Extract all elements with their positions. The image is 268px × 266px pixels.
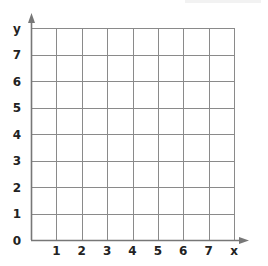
axes [28,13,249,244]
coordinate-grid: 1234567y01234567x [0,0,268,266]
x-tick-label: 7 [204,244,212,258]
x-tick-label: 3 [103,244,111,258]
x-tick-label: 1 [52,244,60,258]
x-tick-label: 4 [128,244,136,258]
y-axis-arrow-icon [28,13,35,23]
y-tick-label: 1 [13,207,21,221]
y-tick-label: 6 [13,75,21,89]
y-tick-label: 7 [13,48,21,62]
x-axis-label: x [230,244,238,258]
y-axis-label: y [13,22,21,36]
axis-labels: 1234567y01234567x [13,22,238,259]
y-tick-label: 2 [13,181,21,195]
x-tick-label: 2 [78,244,86,258]
grid-lines [31,28,235,240]
y-tick-label: 5 [13,101,21,115]
y-tick-label: 3 [13,154,21,168]
x-tick-label: 6 [179,244,187,258]
x-axis-arrow-icon [239,237,249,244]
origin-label: 0 [13,234,21,248]
y-tick-label: 4 [13,128,21,142]
x-tick-label: 5 [154,244,162,258]
